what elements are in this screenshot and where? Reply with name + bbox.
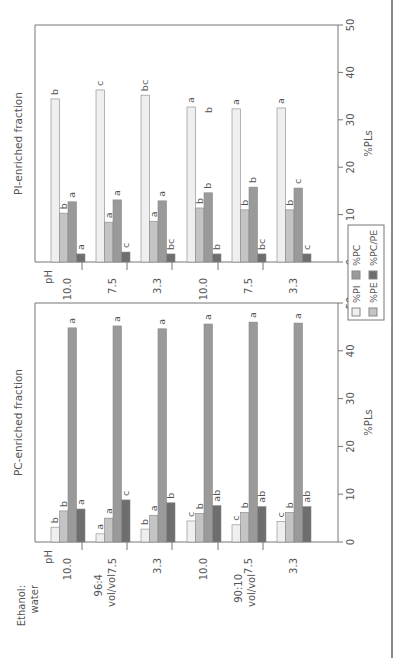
- bar-pcpe: [122, 500, 131, 542]
- significance-letter: c: [275, 512, 286, 517]
- bar-pcpe: [258, 254, 267, 262]
- ph-label: 7.5: [107, 558, 118, 574]
- value-axis-label: %PLs: [363, 409, 374, 435]
- ph-header: pH: [43, 550, 54, 564]
- significance-letter: bc: [165, 239, 176, 250]
- solvent-ratio: 96:4: [93, 574, 104, 596]
- bar-pc: [158, 329, 167, 542]
- significance-letter: b: [284, 502, 295, 508]
- ph-label: 10.0: [62, 558, 73, 580]
- bar-pi: [51, 527, 60, 542]
- significance-letter: a: [103, 508, 114, 514]
- significance-letter: b: [49, 89, 60, 95]
- solvent-unit: vol/vol: [106, 574, 117, 607]
- significance-letter: a: [156, 319, 167, 325]
- significance-letter: c: [94, 81, 105, 86]
- legend-swatch-pi: [352, 308, 360, 316]
- ph-label: 10.0: [62, 278, 73, 300]
- significance-letter: a: [247, 312, 258, 318]
- legend-swatch-pcpe: [369, 271, 377, 279]
- axis-tick-label: 10: [345, 488, 356, 501]
- bar-pe: [196, 208, 205, 262]
- ph-label: 3.3: [152, 558, 163, 574]
- figure-rotated: 01020304050%PLsPI-enriched fractionbbaa1…: [0, 0, 400, 658]
- pi-enriched-panel: [35, 25, 343, 270]
- axis-tick-label: 20: [345, 440, 356, 453]
- bar-pi: [51, 99, 60, 262]
- bar-pcpe: [303, 507, 312, 542]
- significance-letter: c: [120, 243, 131, 248]
- axis-tick-label: 30: [345, 392, 356, 405]
- bar-pi: [187, 521, 196, 542]
- significance-letter: a: [156, 191, 167, 197]
- bar-pi: [96, 90, 105, 262]
- bar-pi: [141, 529, 150, 542]
- significance-letter: b: [239, 502, 250, 508]
- bar-pcpe: [167, 503, 176, 542]
- row-header-water: water: [29, 584, 40, 613]
- bar-pe: [105, 518, 114, 542]
- bar-pcpe: [213, 254, 222, 262]
- bar-pe: [150, 221, 159, 262]
- ph-label: 10.0: [198, 558, 209, 580]
- bar-pi: [96, 534, 105, 542]
- solvent-unit: vol/vol: [246, 574, 257, 607]
- significance-letter: a: [148, 211, 159, 217]
- bar-pc: [113, 326, 122, 542]
- bar-pe: [286, 512, 295, 542]
- axis-tick-label: 10: [345, 208, 356, 221]
- legend-label-pc: %PC: [351, 244, 362, 266]
- significance-letter: ab: [301, 491, 312, 503]
- significance-letter: b: [211, 244, 222, 250]
- significance-letter: a: [111, 316, 122, 322]
- bar-pc: [158, 201, 167, 262]
- axis-tick-label: 50: [345, 19, 356, 32]
- significance-letter: a: [111, 190, 122, 196]
- significance-letter: c: [185, 512, 196, 517]
- significance-letter: b: [194, 503, 205, 509]
- axis-tick-label: 40: [345, 344, 356, 357]
- axis-tick-label: 30: [345, 113, 356, 126]
- panel-title: PC-enriched fraction: [12, 369, 24, 476]
- row-header-ethanol: Ethanol:: [16, 585, 27, 626]
- significance-letter: c: [301, 245, 312, 250]
- bar-pi: [232, 109, 241, 262]
- bar-pc: [294, 323, 303, 542]
- significance-letter: b: [239, 200, 250, 206]
- significance-letter: b: [49, 517, 60, 523]
- legend-swatch-pe: [369, 308, 377, 316]
- ph-label: 10.0: [198, 278, 209, 300]
- ph-label: 3.3: [152, 278, 163, 294]
- significance-letter: b: [202, 183, 213, 189]
- significance-letter: a: [103, 212, 114, 218]
- ph-label: 3.3: [288, 558, 299, 574]
- bar-pc: [68, 328, 77, 542]
- significance-letter: bc: [139, 80, 150, 91]
- significance-letter: a: [148, 505, 159, 511]
- significance-letter: a: [66, 318, 77, 324]
- bar-pi: [232, 525, 241, 542]
- significance-letter: a: [202, 314, 213, 320]
- legend-label-pcpe: %PC/PE: [368, 230, 379, 266]
- significance-letter: c: [292, 179, 303, 184]
- significance-letter: b: [165, 493, 176, 499]
- bar-pe: [241, 210, 250, 262]
- bar-pcpe: [213, 506, 222, 542]
- significance-letter: b: [247, 177, 258, 183]
- ph-label: 7.5: [107, 278, 118, 294]
- significance-letter: b: [284, 200, 295, 206]
- ph-label: 7.5: [243, 278, 254, 294]
- significance-letter: a: [94, 524, 105, 530]
- bar-pc: [249, 322, 258, 542]
- bar-pcpe: [122, 252, 131, 262]
- significance-letter: a: [75, 499, 86, 505]
- bar-pc: [68, 202, 77, 262]
- bar-pe: [196, 513, 205, 542]
- significance-letter: c: [120, 491, 131, 496]
- bar-pc: [204, 193, 213, 262]
- legend-label-pi: %PI: [351, 285, 362, 303]
- floating-annotation: b: [203, 107, 214, 113]
- significance-letter: a: [66, 192, 77, 198]
- bar-pe: [60, 511, 69, 542]
- significance-letter: b: [58, 501, 69, 507]
